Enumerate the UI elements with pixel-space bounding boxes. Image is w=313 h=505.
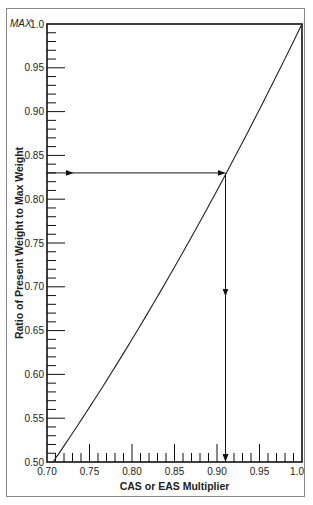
weight-ratio-curve (53, 24, 302, 462)
x-tick-label: 0.75 (80, 466, 100, 477)
y-tick-label: 1.0 (30, 19, 44, 30)
y-axis-ticks: 0.500.550.600.650.700.750.800.850.900.95… (25, 19, 65, 468)
y-axis-title: Ratio of Present Weight to Max Weight (13, 146, 25, 339)
y-tick-label: 0.95 (25, 62, 45, 73)
x-tick-label: 0.90 (207, 466, 227, 477)
max-annotation: MAX (10, 18, 32, 29)
y-tick-label: 0.65 (25, 325, 45, 336)
y-tick-label: 0.70 (25, 281, 45, 292)
x-tick-label: 0.85 (165, 466, 185, 477)
x-tick-label: 0.70 (37, 466, 57, 477)
x-axis-title: CAS or EAS Multiplier (120, 480, 230, 492)
data-curve (53, 24, 302, 462)
plot-axes (47, 24, 302, 462)
y-tick-label: 0.55 (25, 413, 45, 424)
chart-svg: 0.500.550.600.650.700.750.800.850.900.95… (0, 0, 313, 505)
x-tick-label: 0.80 (122, 466, 142, 477)
x-tick-label: 0.95 (250, 466, 270, 477)
y-tick-label: 0.90 (25, 106, 45, 117)
y-tick-label: 0.85 (25, 150, 45, 161)
y-tick-label: 0.80 (25, 194, 45, 205)
y-tick-label: 0.60 (25, 369, 45, 380)
x-axis-ticks: 0.700.750.800.850.900.951.0 (37, 444, 304, 477)
x-tick-label: 1.0 (290, 466, 304, 477)
plot-border (47, 24, 302, 462)
y-tick-label: 0.75 (25, 238, 45, 249)
example-arrows (47, 173, 226, 461)
